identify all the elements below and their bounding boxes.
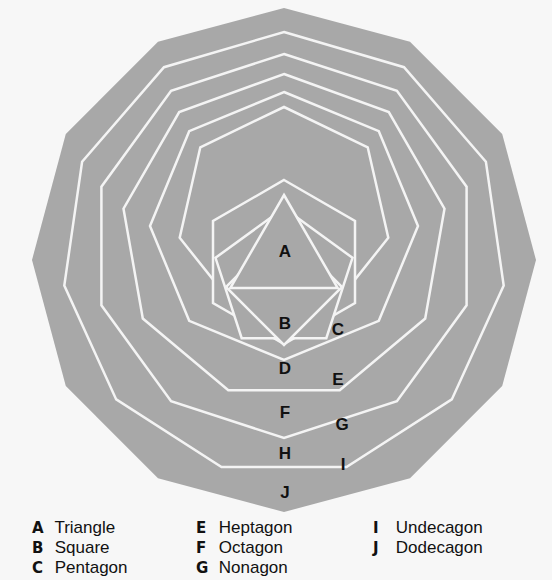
legend-item-f: F Octagon [196, 538, 292, 558]
legend-item-i: I Undecagon [373, 518, 483, 538]
legend-item-a: A Triangle [32, 518, 128, 538]
region-label-c: C [332, 320, 344, 339]
region-label-a: A [279, 242, 291, 261]
legend-column-3: I Undecagon J Dodecagon [373, 518, 483, 558]
region-label-j: J [280, 483, 289, 502]
region-label-d: D [279, 359, 291, 378]
region-label-g: G [335, 415, 348, 434]
region-label-f: F [280, 403, 290, 422]
legend-item-e: E Heptagon [196, 518, 292, 538]
region-label-b: B [279, 314, 291, 333]
region-label-i: I [341, 455, 346, 474]
legend-column-2: E Heptagon F Octagon G Nonagon [196, 518, 292, 578]
legend-item-g: G Nonagon [196, 558, 292, 578]
legend-item-c: C Pentagon [32, 558, 128, 578]
region-label-h: H [279, 444, 291, 463]
nested-polygons-diagram: ABCDEFGHIJ [0, 0, 552, 520]
legend-item-j: J Dodecagon [373, 538, 483, 558]
legend-item-b: B Square [32, 538, 128, 558]
region-label-e: E [332, 370, 343, 389]
legend-column-1: A Triangle B Square C Pentagon [32, 518, 128, 578]
